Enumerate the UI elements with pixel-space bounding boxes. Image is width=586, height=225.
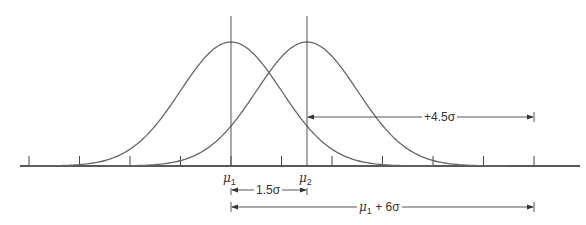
- subscript: 1: [231, 177, 236, 187]
- normal-distribution-shift-diagram: [0, 0, 586, 225]
- shift-label: 1.5σ: [254, 184, 282, 196]
- subscript: 2: [307, 177, 312, 187]
- mu1-plus-6-sigma-label: μ1 + 6σ: [357, 201, 402, 217]
- mu2-label: μ2: [299, 172, 312, 188]
- mu-symbol: μ: [299, 171, 307, 185]
- suffix: + 6σ: [372, 200, 400, 214]
- mu1-label: μ1: [223, 172, 236, 188]
- mu-symbol: μ: [223, 171, 231, 185]
- mu-symbol: μ: [359, 200, 367, 214]
- plus-4-5-sigma-label: +4.5σ: [422, 111, 457, 123]
